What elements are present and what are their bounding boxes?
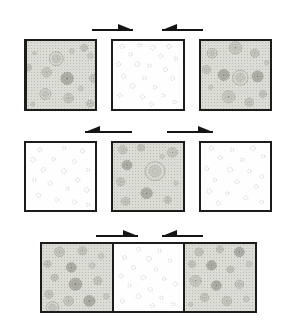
particle <box>159 296 162 299</box>
particle <box>230 148 233 151</box>
particle <box>138 43 142 46</box>
particle <box>143 77 147 80</box>
particle <box>129 53 133 56</box>
particle <box>87 100 94 107</box>
particle <box>52 157 55 160</box>
particle <box>122 255 126 259</box>
particle <box>119 274 123 278</box>
particle <box>122 160 132 169</box>
particle <box>213 178 216 181</box>
particle <box>148 64 152 67</box>
particle <box>157 249 160 252</box>
particle <box>150 45 155 50</box>
particle <box>254 185 258 189</box>
particle <box>86 168 89 171</box>
particle <box>135 62 140 67</box>
particle <box>44 261 51 268</box>
particle <box>236 280 244 288</box>
panel-middle-right <box>199 141 272 212</box>
panel-bottom-right <box>185 244 255 311</box>
particle <box>120 44 124 48</box>
panel-top-right <box>199 39 272 111</box>
panel-middle-left <box>24 141 97 212</box>
particle <box>136 247 140 251</box>
particle <box>189 302 193 306</box>
particle <box>235 180 239 184</box>
particle <box>121 74 125 78</box>
particle <box>30 157 35 162</box>
particle <box>89 263 95 268</box>
particle <box>248 169 251 172</box>
particle <box>90 74 95 82</box>
particle <box>173 101 177 104</box>
particle <box>168 259 171 262</box>
particle <box>69 278 82 290</box>
particle <box>62 147 65 150</box>
particle <box>195 248 203 256</box>
particle <box>167 44 171 48</box>
panel-top-middle <box>111 39 185 111</box>
particle <box>145 162 165 181</box>
particle <box>235 247 245 256</box>
particle <box>189 261 196 268</box>
particle <box>138 144 145 151</box>
particle <box>48 181 52 185</box>
panel-bottom-left <box>42 244 112 311</box>
particle <box>38 148 42 152</box>
arrow-top-right <box>162 24 203 30</box>
particle <box>84 188 89 193</box>
particle <box>119 146 127 154</box>
particle <box>222 296 232 305</box>
particle <box>40 89 51 100</box>
particle <box>174 57 178 60</box>
particle <box>245 98 253 106</box>
particle <box>118 93 122 97</box>
particle <box>229 42 241 54</box>
particle <box>207 189 212 194</box>
particle <box>45 290 53 298</box>
particle <box>146 256 151 261</box>
particle <box>202 65 210 73</box>
particle <box>33 52 36 55</box>
particle <box>84 296 95 307</box>
particle <box>81 44 88 51</box>
particle <box>260 91 267 98</box>
particle <box>260 200 263 203</box>
particle <box>140 275 145 280</box>
arrow-bot-left <box>96 230 138 236</box>
particle <box>64 296 74 305</box>
particle <box>136 294 141 299</box>
particle <box>62 169 67 174</box>
particle <box>46 302 59 311</box>
particle <box>64 93 74 103</box>
particle <box>81 149 85 153</box>
panel-middle-center <box>111 141 185 212</box>
particle <box>164 197 171 204</box>
particle <box>86 203 89 206</box>
particle <box>216 201 220 205</box>
particle <box>148 288 152 292</box>
particle <box>27 64 32 71</box>
particle <box>163 68 167 72</box>
particle <box>117 178 125 186</box>
particle <box>36 193 40 197</box>
particle <box>244 196 248 200</box>
diagram <box>0 0 286 333</box>
particle <box>78 247 86 255</box>
particle <box>149 102 153 106</box>
particle <box>170 76 174 80</box>
particle <box>70 49 75 54</box>
bottom-joined-box <box>40 242 257 313</box>
particle <box>78 86 83 91</box>
arrow-mid-right <box>167 126 213 132</box>
particle <box>171 303 174 306</box>
particle <box>250 146 255 151</box>
particle <box>55 198 58 201</box>
particle <box>207 261 217 270</box>
particle <box>120 299 124 303</box>
particle <box>247 261 253 266</box>
particle <box>94 277 102 285</box>
particle <box>141 188 152 199</box>
particle <box>252 71 263 82</box>
particle <box>204 166 208 170</box>
